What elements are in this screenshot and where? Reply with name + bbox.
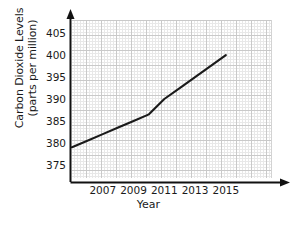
x-tick-label: 2015	[210, 184, 242, 196]
y-tick-label: 400	[42, 50, 66, 60]
y-tick-label: 390	[42, 94, 66, 104]
x-tick-label: 2009	[118, 184, 150, 196]
y-tick-label: 395	[42, 72, 66, 82]
y-tick-label: 380	[42, 138, 66, 148]
y-tick-label: 405	[42, 28, 66, 38]
x-tick-label: 2011	[148, 184, 180, 196]
x-tick-label: 2007	[87, 184, 119, 196]
x-tick-label: 2013	[179, 184, 211, 196]
y-tick-label: 375	[42, 160, 66, 170]
y-axis-title-line1: Carbon Dioxide Levels	[13, 8, 26, 129]
data-line-svg	[72, 20, 272, 178]
y-axis-title: Carbon Dioxide Levels (parts per million…	[13, 0, 39, 141]
y-tick-label: 385	[42, 116, 66, 126]
co2-trend-line	[72, 55, 226, 147]
y-axis-arrowhead	[67, 9, 75, 19]
co2-line-chart: Carbon Dioxide Levels (parts per million…	[0, 0, 297, 228]
y-axis-title-line2: (parts per million)	[26, 0, 39, 141]
x-axis-title: Year	[0, 198, 297, 211]
plot-area	[72, 20, 272, 178]
